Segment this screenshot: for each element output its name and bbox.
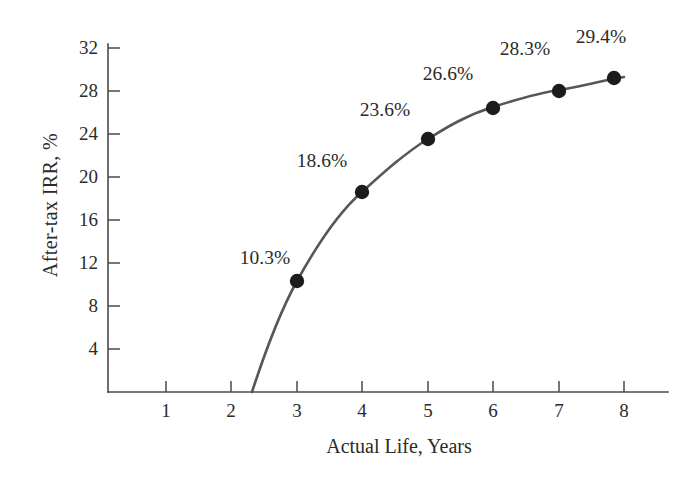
y-axis-title: After-tax IRR, %: [39, 133, 62, 277]
x-tick-label-3: 3: [292, 400, 302, 422]
plot-area: [0, 0, 689, 479]
y-tick-label-24: 24: [70, 123, 98, 145]
chart-canvas: 32 28 24 20 16 12 8 4 1 2 3 4 5 6 7 8 10…: [0, 0, 689, 479]
data-point-markers: [290, 71, 621, 288]
y-tick-label-8: 8: [70, 295, 98, 317]
y-axis-ticks: [108, 48, 120, 349]
data-label-year-8: 29.4%: [576, 26, 626, 48]
y-tick-label-28: 28: [70, 80, 98, 102]
x-tick-label-6: 6: [488, 400, 498, 422]
x-tick-label-8: 8: [619, 400, 629, 422]
data-point-year-8: [607, 71, 621, 85]
data-label-year-6: 26.6%: [423, 63, 473, 85]
x-tick-label-7: 7: [554, 400, 564, 422]
y-tick-label-32: 32: [70, 37, 98, 59]
data-point-year-7: [552, 84, 566, 98]
irr-curve: [252, 77, 624, 392]
x-axis-ticks: [166, 381, 624, 392]
data-label-year-4: 18.6%: [297, 150, 347, 172]
x-tick-label-1: 1: [161, 400, 171, 422]
y-tick-label-16: 16: [70, 209, 98, 231]
data-point-year-6: [486, 101, 500, 115]
y-tick-label-20: 20: [70, 166, 98, 188]
data-label-year-5: 23.6%: [360, 99, 410, 121]
x-tick-label-4: 4: [357, 400, 367, 422]
data-label-year-7: 28.3%: [500, 38, 550, 60]
data-point-year-3: [290, 274, 304, 288]
x-axis-title: Actual Life, Years: [326, 435, 472, 458]
x-tick-label-5: 5: [423, 400, 433, 422]
data-point-year-5: [421, 132, 435, 146]
data-point-year-4: [355, 185, 369, 199]
y-tick-label-12: 12: [70, 252, 98, 274]
data-label-year-3: 10.3%: [240, 247, 290, 269]
y-tick-label-4: 4: [70, 338, 98, 360]
x-tick-label-2: 2: [226, 400, 236, 422]
